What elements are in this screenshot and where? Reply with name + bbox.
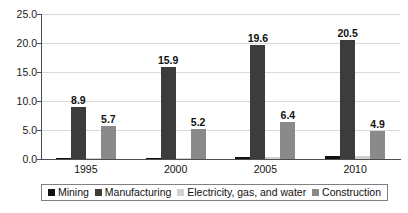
bar[interactable]: 8.9	[71, 107, 86, 159]
y-tick-label: 5.0	[0, 125, 37, 135]
bar-slot: 19.6	[250, 14, 265, 159]
bar-slot	[176, 14, 191, 159]
x-tick-label: 2005	[221, 162, 311, 178]
bar[interactable]: 20.5	[340, 40, 355, 159]
x-tick-label: 1995	[41, 162, 131, 178]
legend-swatch-icon	[177, 189, 184, 196]
bar-group: 20.54.9	[310, 14, 400, 159]
chart-legend: Mining Manufacturing Electricity, gas, a…	[41, 184, 388, 201]
bar[interactable]	[235, 157, 250, 159]
y-tick-label: 20.0	[0, 38, 37, 48]
bar-slot	[265, 14, 280, 159]
legend-item-electricity-gas-water[interactable]: Electricity, gas, and water	[177, 187, 306, 198]
bar[interactable]	[86, 158, 101, 159]
bar[interactable]: 5.7	[101, 126, 116, 159]
bar[interactable]: 4.9	[370, 131, 385, 159]
legend-swatch-icon	[48, 189, 55, 196]
bar-slot	[146, 14, 161, 159]
y-tick-label: 0.0	[0, 154, 37, 164]
y-tick-label: 15.0	[0, 67, 37, 77]
legend-item-mining[interactable]: Mining	[48, 187, 89, 198]
y-tick-label: 10.0	[0, 96, 37, 106]
bar-value-label: 4.9	[370, 119, 385, 130]
bar[interactable]: 6.4	[280, 122, 295, 159]
bar[interactable]	[56, 158, 71, 159]
bar[interactable]	[146, 158, 161, 159]
y-tick-label: 25.0	[0, 9, 37, 19]
bar-slot: 5.7	[101, 14, 116, 159]
x-axis-labels: 1995 2000 2005 2010	[41, 162, 400, 178]
bar-slot: 6.4	[280, 14, 295, 159]
bar-slot: 15.9	[161, 14, 176, 159]
legend-label: Mining	[58, 187, 89, 198]
x-tick-label: 2000	[131, 162, 221, 178]
y-axis-labels: 25.0 20.0 15.0 10.0 5.0 0.0	[0, 14, 37, 160]
bar-groups: 8.95.715.95.219.66.420.54.9	[41, 14, 400, 159]
bar-value-label: 8.9	[71, 95, 86, 106]
bar[interactable]: 5.2	[191, 129, 206, 159]
bar[interactable]	[265, 157, 280, 159]
bar[interactable]: 19.6	[250, 45, 265, 159]
bar[interactable]	[355, 156, 370, 159]
bar-value-label: 5.2	[191, 117, 206, 128]
legend-label: Construction	[322, 187, 381, 198]
bar-value-label: 5.7	[101, 114, 116, 125]
bar[interactable]: 15.9	[161, 67, 176, 159]
legend-item-manufacturing[interactable]: Manufacturing	[95, 187, 172, 198]
bar-slot: 20.5	[340, 14, 355, 159]
bar-group: 8.95.7	[41, 14, 131, 159]
bar-slot	[56, 14, 71, 159]
legend-label: Electricity, gas, and water	[187, 187, 306, 198]
legend-swatch-icon	[95, 189, 102, 196]
bar-group: 15.95.2	[131, 14, 221, 159]
x-tick-label: 2010	[310, 162, 400, 178]
bar-group: 19.66.4	[221, 14, 311, 159]
bar-slot	[355, 14, 370, 159]
bar-slot: 8.9	[71, 14, 86, 159]
bar-value-label: 6.4	[281, 110, 296, 121]
legend-label: Manufacturing	[105, 187, 172, 198]
legend-swatch-icon	[312, 189, 319, 196]
bar-slot: 5.2	[191, 14, 206, 159]
legend-item-construction[interactable]: Construction	[312, 187, 381, 198]
bar-slot: 4.9	[370, 14, 385, 159]
bar[interactable]	[325, 156, 340, 159]
bar[interactable]	[176, 158, 191, 159]
x-axis-line	[41, 159, 401, 160]
bar-chart: 25.0 20.0 15.0 10.0 5.0 0.0 8.95.715.95.…	[0, 0, 408, 213]
bar-slot	[86, 14, 101, 159]
